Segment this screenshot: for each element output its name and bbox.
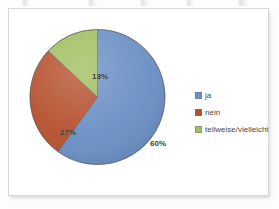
legend-swatch-icon-ja: [195, 92, 202, 99]
legend-swatch-icon-teilweise-vielleicht: [195, 126, 202, 133]
legend-label-teilweise-vielleicht: teilweise/vielleicht: [205, 125, 269, 134]
legend-label-ja: ja: [205, 91, 211, 100]
chart-legend: ja nein teilweise/vielleicht: [195, 87, 279, 138]
pie-data-label-ja: 60%: [150, 139, 166, 148]
chart-panel: 60% 27% 13% ja nein teilweise/vielleicht: [8, 8, 269, 196]
pie-sheen-overlay: [30, 30, 165, 165]
legend-item-ja[interactable]: ja: [195, 87, 279, 104]
pie-data-label-nein: 27%: [60, 128, 76, 137]
legend-item-teilweise-vielleicht[interactable]: teilweise/vielleicht: [195, 121, 279, 138]
pie-data-label-teilweise-vielleicht: 13%: [92, 72, 108, 81]
legend-label-nein: nein: [205, 108, 220, 117]
pie-chart: 60% 27% 13%: [29, 27, 166, 167]
scan-artifact-strip: [0, 0, 279, 6]
legend-swatch-icon-nein: [195, 109, 202, 116]
scanned-page: 60% 27% 13% ja nein teilweise/vielleicht: [0, 0, 279, 209]
legend-item-nein[interactable]: nein: [195, 104, 279, 121]
pie-chart-svg: [29, 27, 166, 167]
